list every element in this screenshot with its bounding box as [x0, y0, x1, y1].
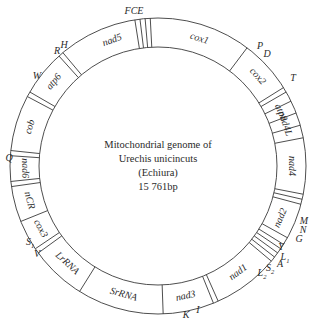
gene-boundary-line — [145, 19, 148, 48]
trna-label-g: G — [295, 233, 302, 244]
title-line-1: Mitochondrial genome of — [88, 138, 228, 152]
gene-label-nad5: nad5 — [101, 31, 124, 48]
trna-label-k: K — [182, 309, 191, 320]
gene-label-atp6: atp6 — [43, 71, 63, 92]
phylum-name: (Echiura) — [88, 166, 228, 180]
gene-boundary-line — [162, 285, 163, 314]
gene-label-cob: cob — [22, 118, 37, 135]
trna-label-p: P — [256, 40, 263, 51]
trna-label-t: T — [290, 72, 297, 83]
gene-label-cox1: cox1 — [189, 30, 210, 46]
gene-label-nad2: nad2 — [271, 206, 289, 229]
trna-label-h: H — [59, 39, 68, 50]
gene-boundary-line — [11, 178, 40, 181]
trna-label-d: D — [262, 48, 271, 59]
trna-label-fce: FCE — [124, 5, 144, 16]
gene-boundary-line — [275, 138, 303, 144]
gene-label-cox3: cox3 — [32, 217, 51, 239]
gene-label-srrna: SrRNA — [109, 285, 140, 303]
gene-label-ncr: nCR — [23, 190, 38, 210]
gene-label-nad4: nad4 — [287, 156, 298, 176]
gene-boundary-line — [80, 267, 95, 292]
trna-label-s2: S2 — [266, 262, 275, 275]
genome-title: Mitochondrial genome of Urechis unicincu… — [88, 138, 228, 194]
gene-label-cox2: cox2 — [248, 65, 269, 86]
gene-label-nad3: nad3 — [175, 288, 197, 303]
gene-boundary-line — [11, 151, 40, 154]
gene-boundary-line — [150, 18, 152, 47]
gene-boundary-line — [230, 48, 247, 71]
trna-label-s1: S1 — [26, 236, 34, 249]
gene-boundary-line — [135, 20, 140, 49]
trna-label-i: I — [195, 304, 200, 315]
genome-size: 15 761bp — [88, 180, 228, 194]
gene-boundary-line — [140, 19, 144, 48]
gene-label-lrrna: LrRNA — [53, 248, 83, 277]
species-name: Urechis unicincuts — [88, 152, 228, 166]
gene-boundary-line — [275, 189, 303, 195]
gene-label-nad6: nad6 — [20, 158, 31, 178]
gene-label-nad4l: nad4L — [276, 109, 295, 137]
gene-label-nad1: nad1 — [226, 261, 249, 282]
gene-boundary-line — [11, 183, 40, 187]
gene-boundary-line — [203, 276, 214, 303]
trna-label-a: A — [276, 258, 284, 269]
gene-boundary-line — [206, 275, 218, 301]
trna-label-v: V — [34, 248, 42, 259]
trna-label-r: R — [53, 45, 60, 56]
trna-label-q: Q — [5, 152, 13, 163]
